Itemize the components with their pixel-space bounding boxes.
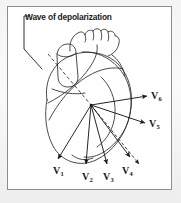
- heart-outline-group: [46, 29, 132, 164]
- label-leader-line: [24, 16, 42, 69]
- septum-curve: [48, 45, 97, 103]
- lead-label-v2-letter: V: [82, 171, 89, 182]
- lead-label-v1-subscript: 1: [61, 170, 64, 177]
- lead-label-v2-subscript: 2: [90, 176, 93, 183]
- appendage-notch-3: [101, 31, 102, 40]
- figure-frame: Wave of depolarization V1 V2 V3 V4 V5 V6: [7, 6, 172, 190]
- vector-v2: [86, 105, 91, 164]
- lead-label-v1-letter: V: [53, 165, 60, 176]
- heart-vector-diagram: [8, 7, 171, 189]
- lead-vector-group: [58, 96, 147, 164]
- vector-v3: [91, 105, 107, 164]
- vector-v1: [58, 105, 91, 159]
- vector-v6: [91, 96, 147, 105]
- lead-label-v3: V3: [103, 172, 113, 182]
- lead-label-v6-subscript: 6: [159, 95, 162, 102]
- depolarization-wave-upper-dash: [48, 54, 91, 105]
- lead-label-v3-subscript: 3: [111, 176, 114, 183]
- lead-label-v4-subscript: 4: [130, 170, 133, 177]
- atrial-appendage: [70, 29, 119, 56]
- appendage-notch-2: [93, 31, 94, 40]
- aortic-root: [112, 55, 125, 76]
- lead-label-v5-letter: V: [149, 118, 156, 129]
- vector-v5: [91, 105, 145, 123]
- lead-label-v6-letter: V: [151, 90, 158, 101]
- wave-of-depolarization-label: Wave of depolarization: [25, 13, 112, 22]
- appendage-notch-1: [85, 35, 86, 42]
- lead-label-v1: V1: [53, 166, 63, 176]
- lead-label-v3-letter: V: [103, 171, 110, 182]
- lead-label-v2: V2: [82, 172, 92, 182]
- lead-label-v4: V4: [122, 166, 132, 176]
- figure-root: Wave of depolarization V1 V2 V3 V4 V5 V6: [0, 0, 181, 203]
- lead-label-v4-letter: V: [122, 165, 129, 176]
- pulmonary-trunk: [57, 44, 78, 87]
- lead-label-v5: V5: [149, 119, 159, 129]
- lead-label-v5-subscript: 5: [157, 123, 160, 130]
- appendage-notch-4: [108, 32, 109, 41]
- lead-label-v6: V6: [151, 91, 161, 101]
